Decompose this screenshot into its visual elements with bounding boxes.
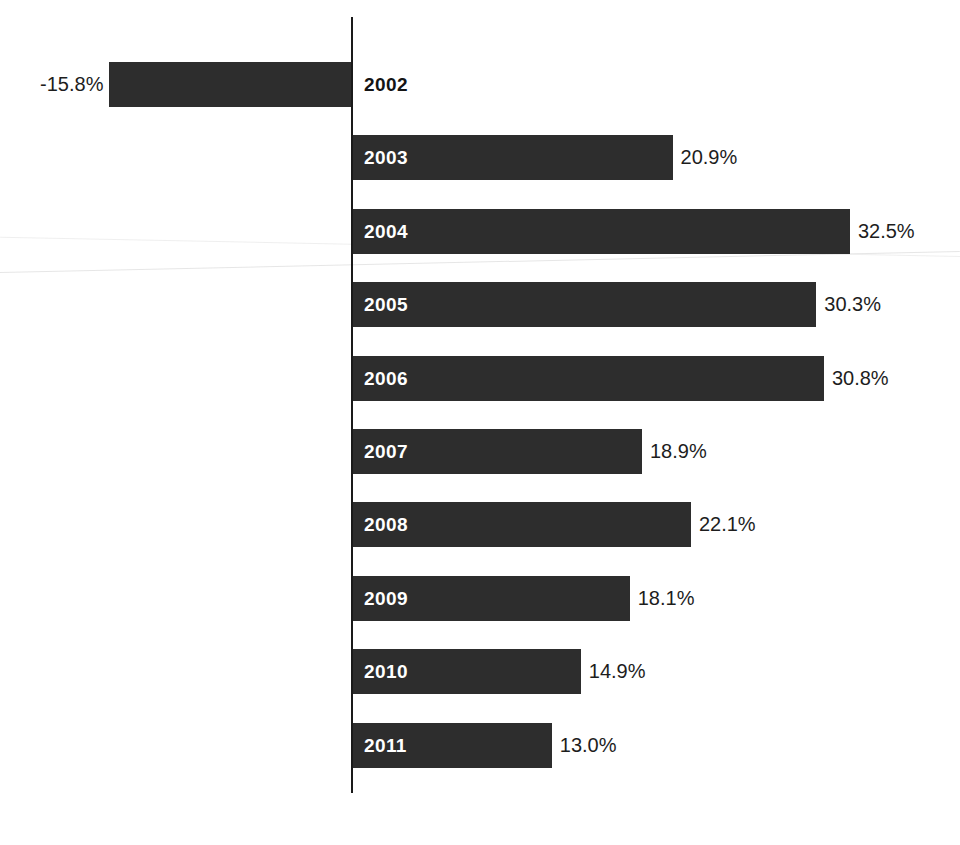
bar-2002[interactable] [109,62,351,107]
bar-row: 200718.9% [0,429,960,474]
bar-row: 2002-15.8% [0,62,960,107]
bar-year-label-2004: 2004 [364,209,408,254]
bar-year-label-2011: 2011 [364,723,407,768]
bar-row: 200320.9% [0,135,960,180]
bar-value-label-2009: 18.1% [638,576,695,621]
bar-plot-area: 2002-15.8%200320.9%200432.5%200530.3%200… [0,0,960,845]
bar-2005[interactable] [353,282,816,327]
bar-year-label-2005: 2005 [364,282,408,327]
bar-year-label-2006: 2006 [364,356,408,401]
bar-value-label-2011: 13.0% [560,723,617,768]
bar-2006[interactable] [353,356,824,401]
bar-value-label-2008: 22.1% [699,502,756,547]
bar-value-label-2007: 18.9% [650,429,707,474]
bar-value-label-2002: -15.8% [40,62,103,107]
bar-row: 200918.1% [0,576,960,621]
bar-value-label-2003: 20.9% [681,135,738,180]
bar-2004[interactable] [353,209,850,254]
bar-year-label-2010: 2010 [364,649,408,694]
bar-row: 201014.9% [0,649,960,694]
bar-year-label-2008: 2008 [364,502,408,547]
bar-value-label-2004: 32.5% [858,209,915,254]
bar-row: 200432.5% [0,209,960,254]
bar-value-label-2006: 30.8% [832,356,889,401]
bar-value-label-2010: 14.9% [589,649,646,694]
bar-row: 201113.0% [0,723,960,768]
bar-year-label-2002: 2002 [364,62,408,107]
bar-row: 200530.3% [0,282,960,327]
bar-year-label-2009: 2009 [364,576,408,621]
bar-chart: 2002-15.8%200320.9%200432.5%200530.3%200… [0,0,960,845]
bar-value-label-2005: 30.3% [824,282,881,327]
bar-year-label-2007: 2007 [364,429,408,474]
bar-row: 200630.8% [0,356,960,401]
bar-year-label-2003: 2003 [364,135,408,180]
bar-row: 200822.1% [0,502,960,547]
